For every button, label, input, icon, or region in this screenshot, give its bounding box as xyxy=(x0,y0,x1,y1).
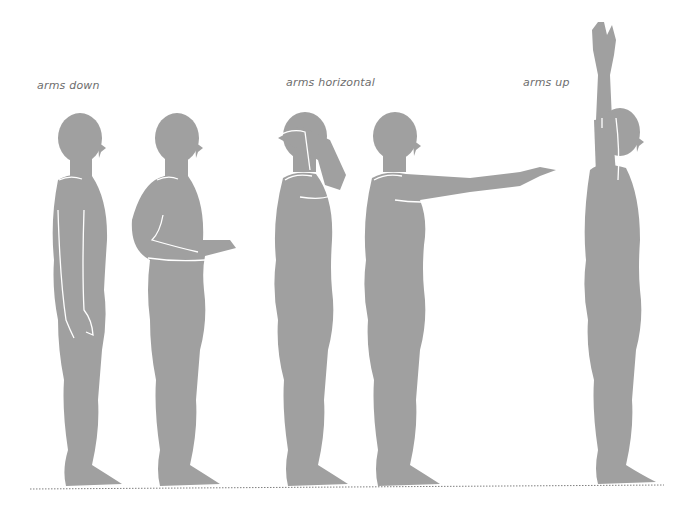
figure-2 xyxy=(132,113,236,486)
figure-4 xyxy=(364,112,556,486)
figure-5 xyxy=(584,22,656,484)
figures-diagram xyxy=(0,0,691,514)
ground-line xyxy=(30,485,664,489)
figure-3 xyxy=(274,112,348,486)
